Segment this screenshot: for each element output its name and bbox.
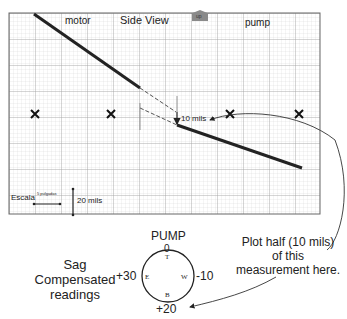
callout-arrow-loop (327, 140, 344, 250)
scale-small-label: 5 pulgadas (37, 191, 57, 196)
up-badge-label: up (196, 13, 202, 19)
dial-right-value: -10 (196, 269, 213, 283)
note-line1: Plot half (10 mils) (228, 235, 347, 249)
pump-label: pump (245, 17, 270, 28)
scale-label: Escala (11, 193, 35, 202)
grid-area (9, 13, 320, 214)
note-line3: measurement here. (228, 263, 347, 277)
sag-line2: Compensated (25, 272, 125, 287)
dial-letter-t: T (165, 253, 169, 261)
side-view-title: Side View (120, 14, 169, 26)
dial-letter-w: W (181, 273, 188, 281)
dial-letter-e: E (145, 273, 149, 281)
sag-line1: Sag (25, 257, 125, 272)
note-line2: of this (228, 249, 347, 263)
note-caption: Plot half (10 mils) of this measurement … (228, 235, 347, 277)
scale-vertical-label: 20 mils (77, 196, 102, 205)
dial-letter-b: B (165, 291, 170, 299)
sag-caption: Sag Compensated readings (25, 257, 125, 302)
motor-label: motor (65, 15, 91, 26)
dial-bottom-value: +20 (156, 302, 176, 316)
measurement-label: 10 mils (181, 114, 206, 123)
dial-left-value: +30 (116, 269, 136, 283)
dial-title: PUMP (151, 229, 186, 243)
sag-line3: readings (25, 287, 125, 302)
